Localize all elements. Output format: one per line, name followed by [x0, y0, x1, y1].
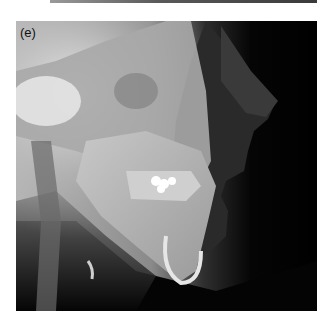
xray-illustration — [16, 21, 317, 311]
panel-label: (e) — [20, 25, 36, 40]
xray-image: (e) — [16, 21, 317, 311]
previous-figure-edge — [50, 0, 317, 3]
